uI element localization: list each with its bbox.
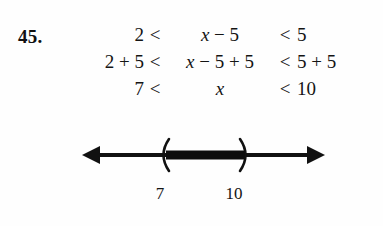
- row-left-expression: 2: [62, 24, 146, 46]
- variable-x: x: [186, 51, 194, 72]
- row-middle-expression: x: [164, 78, 276, 100]
- axis-label-upper-bound: 10: [219, 184, 249, 204]
- right-arrow-icon: [307, 146, 325, 164]
- row-right-relation: <: [276, 51, 294, 73]
- equation-row: 2 < x − 5 < 5: [62, 24, 362, 51]
- number-line-svg: [0, 126, 383, 186]
- row-left-relation: <: [146, 78, 164, 100]
- worksheet-page: 45. 2 < x − 5 < 5 2 + 5 < x − 5 + 5 < 5 …: [0, 0, 383, 226]
- equation-row: 2 + 5 < x − 5 + 5 < 5 + 5: [62, 51, 362, 78]
- row-middle-expression: x − 5: [164, 24, 276, 46]
- row-left-expression: 7: [62, 78, 146, 100]
- row-left-expression: 2 + 5: [62, 51, 146, 73]
- row-left-relation: <: [146, 51, 164, 73]
- row-right-expression: 10: [294, 78, 356, 100]
- row-right-relation: <: [276, 78, 294, 100]
- equation-row: 7 < x < 10: [62, 78, 362, 105]
- left-arrow-icon: [82, 146, 100, 164]
- row-middle-expression: x − 5 + 5: [164, 51, 276, 73]
- row-middle-suffix: − 5 + 5: [195, 51, 254, 72]
- axis-label-lower-bound: 7: [148, 184, 172, 204]
- problem-number: 45.: [18, 26, 43, 48]
- row-middle-suffix: − 5: [209, 24, 239, 45]
- row-left-relation: <: [146, 24, 164, 46]
- row-right-relation: <: [276, 24, 294, 46]
- row-right-expression: 5 + 5: [294, 51, 356, 73]
- inequality-derivation: 2 < x − 5 < 5 2 + 5 < x − 5 + 5 < 5 + 5 …: [62, 24, 362, 105]
- variable-x: x: [216, 78, 224, 99]
- number-line-graph: 7 10: [0, 126, 383, 226]
- row-right-expression: 5: [294, 24, 356, 46]
